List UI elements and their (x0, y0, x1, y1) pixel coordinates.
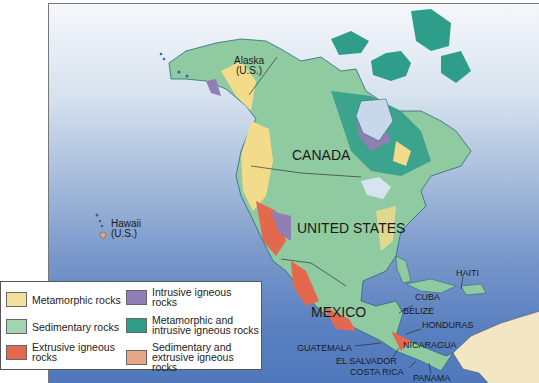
label-alaska-us: (U.S.) (229, 66, 269, 76)
legend-item-metamorphic: Metamorphic rocks (6, 292, 121, 307)
swatch-sedimentary-extrusive (126, 350, 147, 365)
label-hawaii: Hawaii (U.S.) (111, 219, 141, 239)
label-honduras: HONDURAS (422, 320, 474, 330)
legend-item-sedimentary-extrusive: Sedimentary andextrusive igneous rocks (126, 342, 261, 372)
legend-item-intrusive: Intrusive igneousrocks (126, 287, 231, 307)
label-panama: PANAMA (413, 373, 450, 383)
label-canada: CANADA (292, 148, 350, 162)
swatch-sedimentary (6, 319, 27, 334)
label-united-states: UNITED STATES (297, 221, 405, 235)
label-alaska: Alaska (U.S.) (229, 56, 269, 76)
legend-item-extrusive: Extrusive igneousrocks (6, 342, 115, 362)
label-el-salvador: EL SALVADOR (336, 356, 397, 366)
legend-item-sedimentary: Sedimentary rocks (6, 319, 119, 334)
label-belize: BELIZE (403, 306, 434, 316)
swatch-metamorphic (6, 292, 27, 307)
label-cuba: CUBA (415, 292, 440, 302)
swatch-metamorphic-intrusive (126, 318, 147, 333)
label-costa-rica: COSTA RICA (350, 367, 404, 377)
map-legend: Metamorphic rocks Sedimentary rocks Extr… (0, 281, 262, 370)
swatch-extrusive (6, 345, 27, 360)
label-haiti: HAITI (456, 268, 479, 278)
legend-item-metamorphic-intrusive: Metamorphic andintrusive igneous rocks (126, 315, 259, 335)
label-nicaragua: NICARAGUA (403, 340, 457, 350)
label-guatemala: GUATEMALA (297, 343, 352, 353)
swatch-intrusive (126, 290, 147, 305)
label-mexico: MEXICO (311, 305, 366, 319)
label-hawaii-us: (U.S.) (111, 229, 141, 239)
